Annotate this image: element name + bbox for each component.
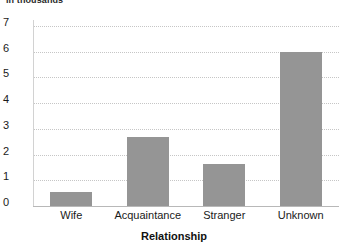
y-tick-label: 1 <box>3 170 29 182</box>
bar <box>280 52 322 206</box>
x-tick-label: Acquaintance <box>110 209 187 221</box>
chart-header-note: in thousands <box>6 0 63 5</box>
y-axis-tick-labels: 01234567 <box>0 26 29 206</box>
y-tick-label: 5 <box>3 67 29 79</box>
x-axis-category-labels: WifeAcquaintanceStrangerUnknown <box>33 209 339 227</box>
y-tick-label: 3 <box>3 119 29 131</box>
y-tick-label: 7 <box>3 16 29 28</box>
y-tick-label: 6 <box>3 42 29 54</box>
y-tick-label: 0 <box>3 196 29 208</box>
bar <box>127 137 169 206</box>
bars <box>33 26 339 206</box>
x-axis-line <box>33 206 339 207</box>
plot-area <box>33 26 339 206</box>
x-axis-title: Relationship <box>0 230 348 242</box>
x-tick-label: Stranger <box>186 209 263 221</box>
bar <box>50 192 92 206</box>
y-tick-label: 2 <box>3 145 29 157</box>
bar-chart: in thousands 01234567 WifeAcquaintanceSt… <box>0 0 348 250</box>
x-tick-label: Wife <box>33 209 110 221</box>
y-tick-label: 4 <box>3 93 29 105</box>
y-axis-line <box>33 20 34 207</box>
x-tick-label: Unknown <box>263 209 340 221</box>
bar <box>203 164 245 206</box>
